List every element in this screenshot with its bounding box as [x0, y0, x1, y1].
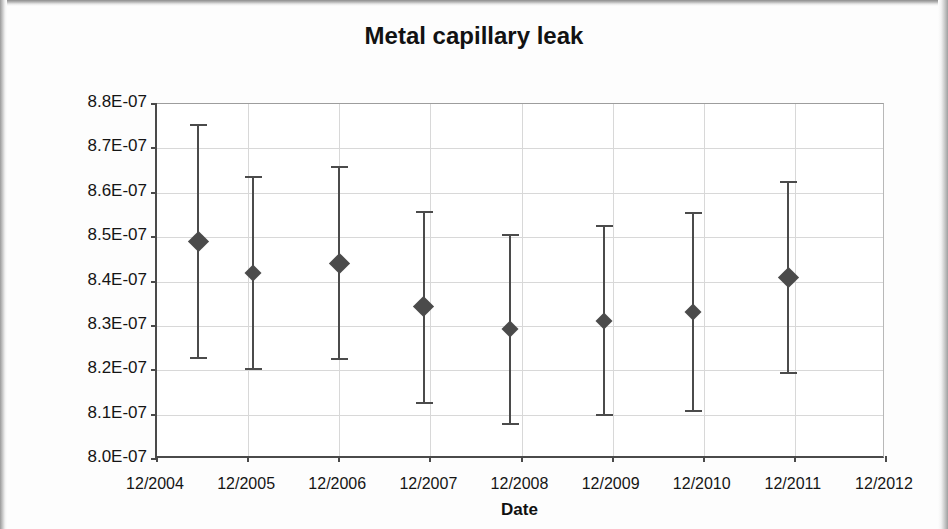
data-point-marker[interactable]	[413, 296, 434, 317]
scan-right-edge	[938, 0, 948, 529]
error-bar-cap-lower	[685, 410, 702, 412]
y-tick-label: 8.5E-07	[7, 225, 147, 245]
error-bar-cap-upper	[502, 234, 519, 236]
y-tick-mark	[151, 192, 157, 194]
gridline-horizontal	[157, 370, 883, 371]
error-bar-cap-lower	[780, 372, 797, 374]
y-tick-label: 8.8E-07	[7, 92, 147, 112]
error-bar-cap-lower	[596, 414, 613, 416]
y-tick-label: 8.6E-07	[7, 181, 147, 201]
scan-top-edge	[0, 0, 948, 6]
gridline-vertical	[248, 104, 249, 456]
x-tick-mark	[703, 456, 705, 462]
x-tick-label: 12/2011	[765, 475, 822, 493]
y-tick-label: 8.4E-07	[7, 270, 147, 290]
x-tick-label: 12/2012	[855, 475, 913, 493]
x-tick-label: 12/2005	[217, 475, 275, 493]
y-tick-mark	[151, 236, 157, 238]
gridline-horizontal	[157, 326, 883, 327]
plot-area	[155, 103, 884, 458]
error-bar-cap-upper	[245, 176, 262, 178]
x-tick-label: 12/2007	[399, 475, 457, 493]
gridline-vertical	[704, 104, 705, 456]
scan-left-edge	[0, 0, 7, 529]
gridline-horizontal	[157, 415, 883, 416]
error-bar-cap-upper	[596, 225, 613, 227]
error-bar-cap-lower	[190, 357, 207, 359]
y-tick-mark	[151, 147, 157, 149]
error-bar-cap-lower	[502, 423, 519, 425]
y-tick-mark	[151, 325, 157, 327]
gridline-horizontal	[157, 193, 883, 194]
scanned-page: Metal capillary leak Throughput at 20℃ i…	[0, 0, 948, 529]
x-tick-mark	[338, 456, 340, 462]
y-tick-label: 8.3E-07	[7, 314, 147, 334]
x-tick-mark	[429, 456, 431, 462]
error-bar-cap-lower	[416, 402, 433, 404]
x-tick-mark	[794, 456, 796, 462]
x-tick-label: 12/2009	[582, 475, 640, 493]
data-point-marker[interactable]	[187, 231, 208, 252]
y-tick-label: 8.0E-07	[7, 447, 147, 467]
y-tick-mark	[151, 103, 157, 105]
error-bar-cap-lower	[331, 358, 348, 360]
x-tick-mark	[156, 456, 158, 462]
data-point-marker[interactable]	[684, 303, 701, 320]
gridline-horizontal	[157, 282, 883, 283]
x-tick-label: 12/2006	[308, 475, 366, 493]
x-tick-mark	[612, 456, 614, 462]
x-tick-label: 12/2008	[491, 475, 549, 493]
x-tick-label: 12/2010	[673, 475, 731, 493]
error-bar-cap-upper	[685, 212, 702, 214]
data-point-marker[interactable]	[501, 321, 518, 338]
data-point-marker[interactable]	[329, 253, 350, 274]
gridline-vertical	[522, 104, 523, 456]
data-point-marker[interactable]	[778, 266, 799, 287]
x-tick-mark	[521, 456, 523, 462]
error-bar-cap-upper	[190, 124, 207, 126]
chart-title: Metal capillary leak	[0, 22, 948, 50]
x-tick-mark	[885, 456, 887, 462]
y-tick-mark	[151, 414, 157, 416]
gridline-vertical	[613, 104, 614, 456]
x-tick-label: 12/2004	[126, 475, 184, 493]
x-axis-title: Date	[155, 500, 884, 520]
error-bar-cap-upper	[331, 166, 348, 168]
gridline-horizontal	[157, 237, 883, 238]
error-bar-cap-upper	[416, 211, 433, 213]
y-tick-label: 8.1E-07	[7, 403, 147, 423]
y-tick-mark	[151, 281, 157, 283]
gridline-horizontal	[157, 148, 883, 149]
y-tick-label: 8.7E-07	[7, 136, 147, 156]
y-tick-label: 8.2E-07	[7, 358, 147, 378]
x-tick-mark	[247, 456, 249, 462]
error-bar-cap-lower	[245, 368, 262, 370]
y-tick-mark	[151, 369, 157, 371]
error-bar-cap-upper	[780, 181, 797, 183]
data-point-marker[interactable]	[244, 264, 261, 281]
